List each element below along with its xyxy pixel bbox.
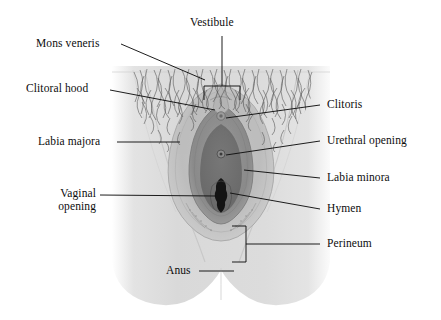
label-vestibule: Vestibule [190,16,234,29]
label-urethral-opening: Urethral opening [327,134,407,147]
label-clitoral-hood: Clitoral hood [26,82,88,95]
label-mons-veneris: Mons veneris [36,37,99,50]
label-perineum: Perineum [327,237,372,250]
label-vaginal-opening-line1: Vaginal [60,187,96,199]
label-hymen: Hymen [327,202,361,215]
label-labia-majora: Labia majora [38,135,100,148]
label-anus: Anus [166,264,191,277]
label-labia-minora: Labia minora [327,171,390,184]
anatomical-diagram-figure: Vestibule Mons veneris Clitoral hood Lab… [0,0,441,320]
label-vaginal-opening: Vaginal opening [36,187,96,213]
label-vaginal-opening-line2: opening [58,200,96,212]
label-clitoris: Clitoris [327,98,362,111]
